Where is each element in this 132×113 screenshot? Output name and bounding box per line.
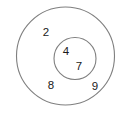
element-label-5: 9 bbox=[92, 81, 98, 93]
element-label-3: 7 bbox=[76, 61, 82, 73]
element-label-2: 4 bbox=[63, 46, 69, 58]
inner-circle bbox=[54, 38, 96, 80]
venn-diagram: 2 4 7 8 9 bbox=[0, 0, 132, 113]
element-label-4: 8 bbox=[48, 80, 54, 92]
element-label-1: 2 bbox=[43, 27, 49, 39]
